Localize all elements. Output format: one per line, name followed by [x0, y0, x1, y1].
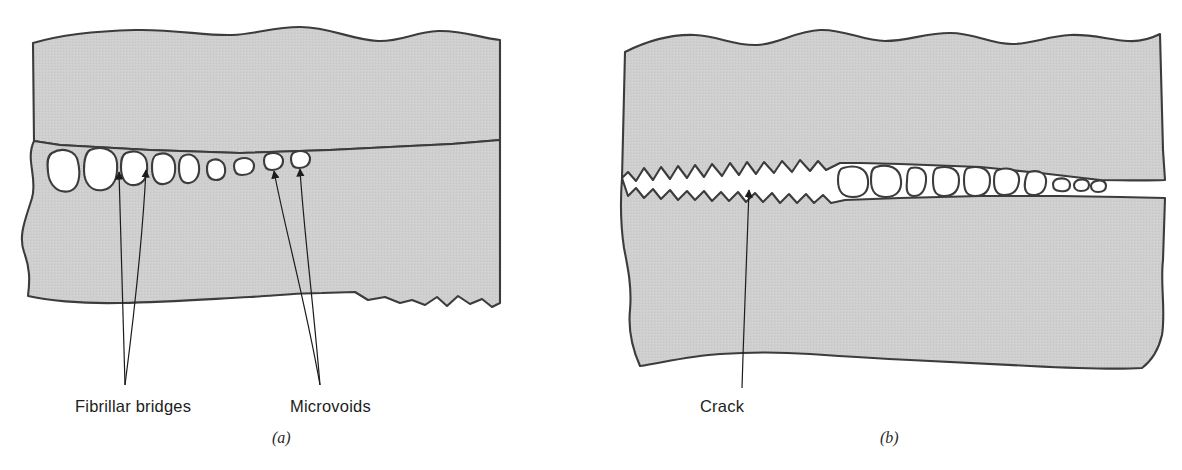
microvoid [1091, 180, 1106, 192]
panel-a-upper-body [33, 27, 500, 153]
microvoid [838, 167, 868, 198]
microvoid [47, 150, 79, 192]
craze-crack-diagram: Fibrillar bridges Microvoids (a) Crack [0, 0, 1182, 470]
microvoid [1074, 179, 1089, 191]
microvoid [234, 158, 254, 175]
microvoid [207, 159, 225, 180]
microvoid [152, 153, 175, 184]
microvoid [1025, 171, 1046, 195]
microvoid [907, 168, 926, 196]
microvoid [1053, 178, 1070, 191]
microvoid [84, 148, 117, 190]
panel-a-group: Fibrillar bridges Microvoids (a) [22, 27, 500, 447]
microvoid [264, 153, 283, 170]
microvoid [121, 151, 147, 185]
microvoid [291, 151, 310, 168]
panel-b-upper-body [622, 30, 1165, 181]
microvoid [933, 167, 959, 196]
crack-label: Crack [700, 397, 745, 415]
fibrillar-bridges-label: Fibrillar bridges [75, 397, 191, 415]
figure-root: Fibrillar bridges Microvoids (a) Crack [0, 0, 1182, 470]
panel-a-caption: (a) [272, 429, 291, 447]
microvoid [871, 166, 901, 197]
microvoid [994, 169, 1019, 195]
microvoid [179, 155, 199, 183]
microvoids-label: Microvoids [290, 397, 371, 415]
panel-b-group: Crack (b) [621, 30, 1165, 447]
panel-b-caption: (b) [880, 429, 899, 447]
microvoid [964, 167, 990, 196]
panel-b-lower-body [621, 178, 1165, 369]
